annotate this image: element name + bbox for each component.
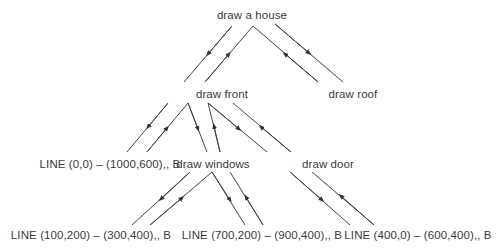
edge-front-outline-up <box>147 103 188 152</box>
edge-windows-window2-up <box>230 172 263 225</box>
edge-front-windows-up <box>208 103 220 152</box>
node-line-door: LINE (400,0) – (600,400),, B <box>344 228 491 242</box>
node-line-window1: LINE (100,200) – (300,400),, B <box>11 228 171 242</box>
edge-door-line-down <box>290 172 350 225</box>
edge-front-outline-down <box>127 103 168 152</box>
edge-front-windows-down <box>188 103 207 152</box>
node-draw-front: draw front <box>196 87 248 101</box>
edge-house-front-up <box>205 26 253 82</box>
edge-front-door-down <box>208 103 267 152</box>
edge-front-door-up <box>233 103 291 152</box>
node-draw-windows: draw windows <box>176 157 249 171</box>
edge-house-front-down <box>184 26 232 82</box>
node-line-window2: LINE (700,200) – (900,400),, B <box>182 228 342 242</box>
node-draw-a-house: draw a house <box>217 8 287 22</box>
edge-house-roof-down <box>275 24 343 82</box>
node-draw-door: draw door <box>302 157 354 171</box>
edge-windows-window2-down <box>212 172 245 225</box>
edge-door-line-up <box>312 172 374 225</box>
node-line-outline: LINE (0,0) – (1000,600),, B <box>40 157 181 171</box>
edge-house-roof-up <box>253 26 318 82</box>
edge-layer <box>0 0 498 248</box>
node-draw-roof: draw roof <box>329 87 378 101</box>
